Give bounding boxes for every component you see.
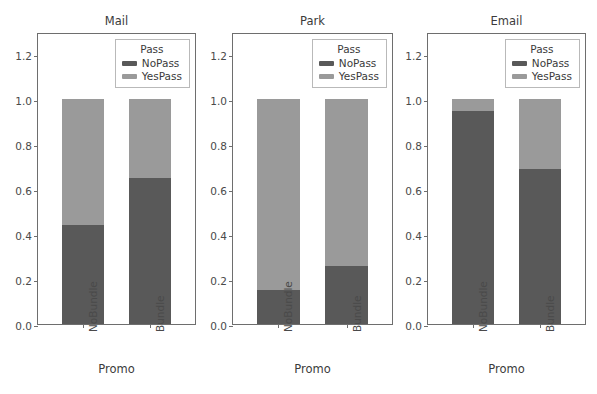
y-tick-label: 0.4 — [15, 229, 32, 243]
plot-area: 0.00.20.40.60.81.01.2NoBundleBundlePassN… — [232, 33, 393, 325]
panel-park: Park0.00.20.40.60.81.01.2NoBundleBundleP… — [232, 0, 393, 394]
bar-nobundle[interactable]: NoBundle — [62, 32, 104, 324]
x-tick-mark — [347, 324, 348, 328]
y-tick-label: 1.2 — [405, 49, 422, 63]
y-tick-label: 0.4 — [405, 229, 422, 243]
y-tick-label: 0.8 — [405, 139, 422, 153]
legend-title: Pass — [122, 43, 182, 56]
plot-area: 0.00.20.40.60.81.01.2NoBundleBundlePassN… — [37, 33, 196, 325]
legend-swatch-icon — [512, 74, 527, 79]
legend-label: NoPass — [142, 57, 180, 70]
legend-item-nopass[interactable]: NoPass — [319, 57, 379, 70]
y-tick-label: 1.0 — [405, 94, 422, 108]
panel-mail: Mail0.00.20.40.60.81.01.2NoBundleBundleP… — [37, 0, 196, 394]
legend-label: YesPass — [532, 70, 572, 83]
y-tick-label: 0.4 — [210, 229, 227, 243]
y-tick-label: 1.2 — [15, 49, 32, 63]
bar-segment-yespass[interactable] — [325, 99, 368, 265]
y-tick-label: 0.8 — [15, 139, 32, 153]
legend-item-nopass[interactable]: NoPass — [512, 57, 572, 70]
bar-segment-yespass[interactable] — [257, 99, 300, 290]
y-tick-label: 0.2 — [405, 274, 422, 288]
bar-segment-yespass[interactable] — [62, 99, 104, 225]
x-tick-label-nobundle: NoBundle — [478, 281, 489, 332]
x-tick-mark — [473, 324, 474, 328]
x-tick-mark — [540, 324, 541, 328]
x-tick-label-bundle: Bundle — [545, 295, 556, 332]
x-tick-label-nobundle: NoBundle — [88, 281, 99, 332]
legend-swatch-icon — [319, 61, 334, 66]
legend-swatch-icon — [512, 61, 527, 66]
legend[interactable]: PassNoPassYesPass — [505, 39, 580, 88]
legend-item-yespass[interactable]: YesPass — [319, 70, 379, 83]
figure-canvas: Mail0.00.20.40.60.81.01.2NoBundleBundleP… — [0, 0, 597, 394]
panel-title: Email — [427, 13, 586, 29]
y-tick-label: 0.6 — [15, 184, 32, 198]
legend-item-nopass[interactable]: NoPass — [122, 57, 182, 70]
x-tick-mark — [83, 324, 84, 328]
y-tick-mark — [34, 326, 38, 327]
bar-nobundle[interactable]: NoBundle — [257, 32, 300, 324]
y-tick-label: 0.6 — [210, 184, 227, 198]
x-axis-title: Promo — [232, 362, 393, 376]
x-tick-mark — [150, 324, 151, 328]
y-tick-mark — [424, 326, 428, 327]
legend-swatch-icon — [122, 74, 137, 79]
legend-title: Pass — [512, 43, 572, 56]
y-tick-mark — [229, 326, 233, 327]
panel-title: Park — [232, 13, 393, 29]
x-tick-mark — [278, 324, 279, 328]
y-tick-label: 0.0 — [15, 319, 32, 333]
legend-item-yespass[interactable]: YesPass — [122, 70, 182, 83]
bar-segment-yespass[interactable] — [519, 99, 561, 169]
x-tick-label-bundle: Bundle — [352, 295, 363, 332]
bar-nobundle[interactable]: NoBundle — [452, 32, 494, 324]
plot-area: 0.00.20.40.60.81.01.2NoBundleBundlePassN… — [427, 33, 586, 325]
y-tick-label: 1.2 — [210, 49, 227, 63]
legend-swatch-icon — [122, 61, 137, 66]
panel-title: Mail — [37, 13, 196, 29]
panel-email: Email0.00.20.40.60.81.01.2NoBundleBundle… — [427, 0, 586, 394]
y-tick-label: 1.0 — [15, 94, 32, 108]
x-tick-label-bundle: Bundle — [155, 295, 166, 332]
legend-label: YesPass — [142, 70, 182, 83]
x-tick-label-nobundle: NoBundle — [283, 281, 294, 332]
legend-label: YesPass — [339, 70, 379, 83]
legend-label: NoPass — [532, 57, 570, 70]
bar-segment-yespass[interactable] — [129, 99, 171, 178]
legend-item-yespass[interactable]: YesPass — [512, 70, 572, 83]
bar-segment-yespass[interactable] — [452, 99, 494, 110]
legend[interactable]: PassNoPassYesPass — [115, 39, 190, 88]
y-tick-label: 1.0 — [210, 94, 227, 108]
y-tick-label: 0.2 — [15, 274, 32, 288]
legend-label: NoPass — [339, 57, 377, 70]
legend-title: Pass — [319, 43, 379, 56]
legend-swatch-icon — [319, 74, 334, 79]
y-tick-label: 0.6 — [405, 184, 422, 198]
y-tick-label: 0.8 — [210, 139, 227, 153]
y-tick-label: 0.0 — [405, 319, 422, 333]
legend[interactable]: PassNoPassYesPass — [312, 39, 387, 88]
y-tick-label: 0.0 — [210, 319, 227, 333]
x-axis-title: Promo — [37, 362, 196, 376]
x-axis-title: Promo — [427, 362, 586, 376]
y-tick-label: 0.2 — [210, 274, 227, 288]
